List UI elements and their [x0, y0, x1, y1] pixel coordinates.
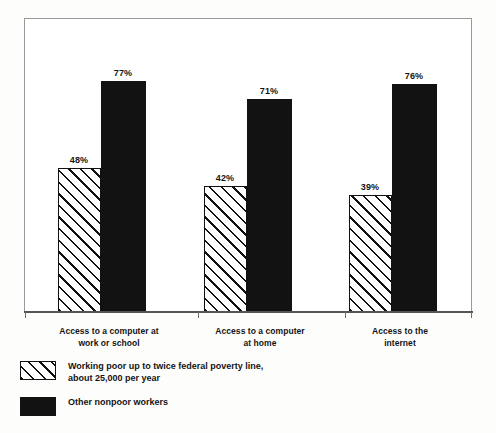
plot-area: 48% 77% 42% 71% 39% 76% [24, 18, 472, 312]
legend-label-other-nonpoor: Other nonpoor workers [68, 396, 168, 408]
bar-series1-cat2 [204, 186, 247, 312]
category-label-2-line-2: at home [185, 337, 335, 349]
category-label-2-line-1: Access to a computer [185, 325, 335, 337]
legend-swatch-hatch-icon [20, 361, 56, 380]
bar-group-1: 48% 77% [58, 18, 179, 312]
legend-label-other-nonpoor-line-1: Other nonpoor workers [68, 396, 168, 408]
legend-label-working-poor-line-2: about 25,000 per year [68, 372, 263, 384]
category-label-1-line-1: Access to a computer at [24, 325, 194, 337]
bar-chart-figure: 48% 77% 42% 71% 39% 76% Access [0, 0, 496, 433]
chart-legend: Working poor up to twice federal poverty… [20, 360, 460, 428]
category-label-2: Access to a computer at home [185, 325, 335, 349]
bar-value-series1-cat2: 42% [216, 173, 234, 183]
bar-series2-cat1 [101, 81, 146, 312]
bar-group-2: 42% 71% [204, 18, 325, 312]
bar-group-3: 39% 76% [349, 18, 470, 312]
category-label-1-line-2: work or school [24, 337, 194, 349]
axis-tick-left [25, 312, 26, 318]
legend-label-working-poor-line-1: Working poor up to twice federal poverty… [68, 360, 263, 372]
bar-value-series1-cat1: 48% [70, 155, 88, 165]
category-label-3-line-2: internet [330, 337, 470, 349]
axis-tick-2 [345, 312, 346, 318]
bar-series1-cat3 [349, 195, 392, 312]
legend-swatch-solid-icon [20, 397, 56, 416]
category-label-3: Access to the internet [330, 325, 470, 349]
bar-value-series2-cat2: 71% [260, 86, 278, 96]
axis-tick-right [471, 312, 472, 318]
bar-value-series1-cat3: 39% [361, 182, 379, 192]
axis-tick-1 [198, 312, 199, 318]
legend-item-working-poor: Working poor up to twice federal poverty… [20, 360, 460, 384]
legend-label-working-poor: Working poor up to twice federal poverty… [68, 360, 263, 384]
bar-series1-cat1 [58, 168, 101, 312]
bar-series2-cat2 [247, 99, 292, 312]
x-axis-line [24, 311, 473, 313]
bar-value-series2-cat3: 76% [405, 71, 423, 81]
legend-item-other-nonpoor: Other nonpoor workers [20, 396, 460, 416]
bar-value-series2-cat1: 77% [114, 68, 132, 78]
category-label-1: Access to a computer at work or school [24, 325, 194, 349]
category-label-3-line-1: Access to the [330, 325, 470, 337]
bar-series2-cat3 [392, 84, 437, 312]
